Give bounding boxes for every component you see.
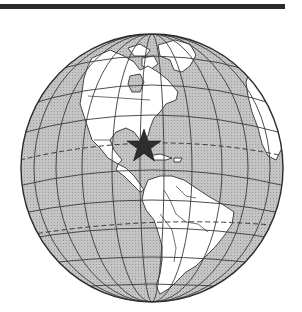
globe-map [0, 0, 302, 312]
